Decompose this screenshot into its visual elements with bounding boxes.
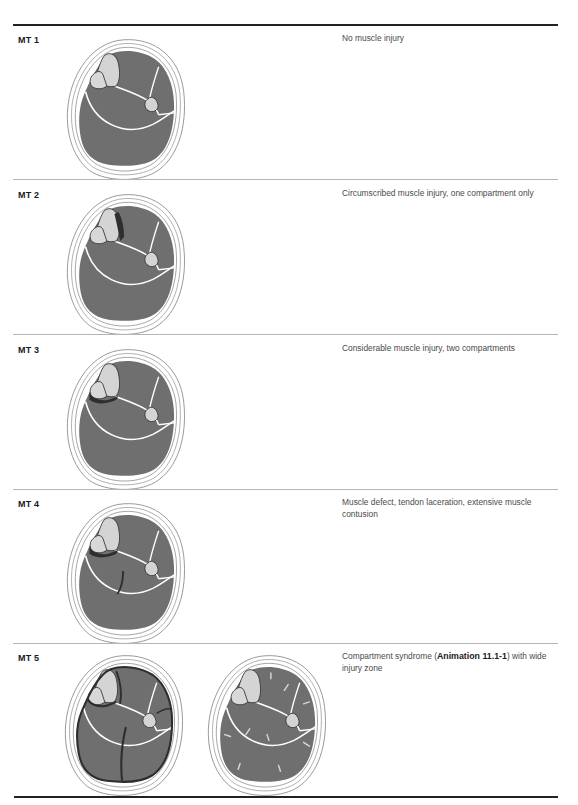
leg-cross-section-mt2 [62,189,190,339]
row-divider [13,334,558,335]
row-label-mt5: MT 5 [18,653,39,663]
row-label-mt4: MT 4 [18,499,39,509]
row-label-mt2: MT 2 [18,190,39,200]
description-text: Compartment syndrome ( [342,651,437,661]
row-label-mt3: MT 3 [18,345,39,355]
animation-link[interactable]: Animation 11.1-1 [437,651,507,661]
leg-cross-section-mt4 [62,498,190,648]
row-divider [13,643,558,644]
leg-cross-section-mt5-a [60,650,188,800]
leg-cross-section-mt3 [62,344,190,494]
row-divider [13,489,558,490]
bottom-rule [14,796,558,798]
row-description-mt1: No muscle injury [342,33,557,45]
row-description-mt5: Compartment syndrome (Animation 11.1-1) … [342,651,557,674]
row-description-mt2: Circumscribed muscle injury, one compart… [342,188,557,200]
leg-cross-section-mt1 [62,34,190,184]
leg-cross-section-mt5-b [203,650,331,800]
row-divider [13,179,558,180]
row-description-mt4: Muscle defect, tendon laceration, extens… [342,497,557,520]
row-label-mt1: MT 1 [18,35,39,45]
row-description-mt3: Considerable muscle injury, two compartm… [342,343,557,355]
top-rule [13,24,558,26]
